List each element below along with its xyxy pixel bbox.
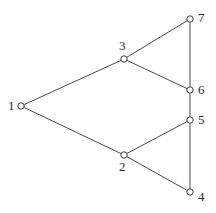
graph-edge-5-2 xyxy=(127,122,187,154)
graph-edge-1-2 xyxy=(24,107,121,153)
graph-node-3[interactable] xyxy=(121,56,127,62)
graph-node-7[interactable] xyxy=(187,16,193,22)
node-label-3: 3 xyxy=(119,39,126,52)
edges-group xyxy=(24,21,190,191)
node-label-5: 5 xyxy=(198,113,205,126)
node-label-6: 6 xyxy=(198,83,205,96)
graph-canvas xyxy=(0,0,216,213)
graph-edge-2-4 xyxy=(127,157,187,191)
graph-node-1[interactable] xyxy=(18,103,24,109)
graph-edge-3-7 xyxy=(127,21,188,58)
node-label-7: 7 xyxy=(198,11,205,24)
graph-node-6[interactable] xyxy=(187,87,193,93)
graph-edge-3-6 xyxy=(127,60,187,88)
node-label-1: 1 xyxy=(8,99,15,112)
node-label-4: 4 xyxy=(198,190,205,203)
graph-node-4[interactable] xyxy=(187,189,193,195)
graph-node-2[interactable] xyxy=(121,152,127,158)
graph-figure: 1234567 xyxy=(0,0,216,213)
graph-node-5[interactable] xyxy=(187,117,193,123)
node-label-2: 2 xyxy=(119,160,126,173)
graph-edge-1-3 xyxy=(24,60,121,104)
nodes-group xyxy=(18,16,193,195)
